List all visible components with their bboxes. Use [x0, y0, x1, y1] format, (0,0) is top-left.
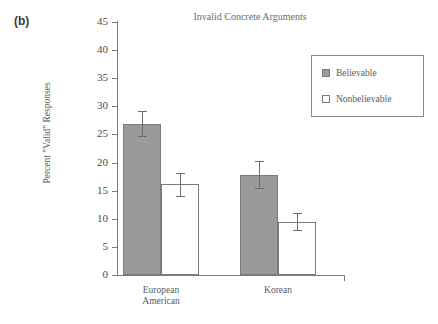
- x-axis-end-tick: [344, 275, 345, 281]
- x-category-label-european-american: EuropeanAmerican: [101, 285, 221, 307]
- errorbar-european-american-believable: [142, 111, 143, 136]
- chart-title: Invalid Concrete Arguments: [150, 11, 350, 22]
- errorbar-cap-upper: [293, 213, 302, 214]
- y-tick-label-20: 20: [82, 157, 108, 167]
- legend-label-nonbelievable: Nonbelievable: [336, 94, 391, 104]
- x-axis-line: [117, 275, 345, 276]
- legend-swatch-nonbelievable-icon: [322, 95, 330, 103]
- y-tick-label-0: 0: [82, 269, 108, 279]
- y-axis-title: Percent "Valid" Responses: [42, 58, 52, 208]
- bar-european-american-nonbelievable[interactable]: [161, 184, 199, 275]
- bar-european-american-believable[interactable]: [123, 124, 161, 275]
- bar-korean-believable[interactable]: [240, 175, 278, 275]
- legend-label-believable: Believable: [336, 68, 377, 78]
- x-category-label-korean: Korean: [218, 285, 338, 296]
- errorbar-cap-lower: [255, 188, 264, 189]
- y-tick-label-10: 10: [82, 213, 108, 223]
- errorbar-cap-upper: [176, 173, 185, 174]
- panel-label: (b): [14, 14, 29, 28]
- y-tick-label-45: 45: [82, 16, 108, 26]
- errorbar-korean-believable: [259, 161, 260, 188]
- errorbar-cap-lower: [293, 230, 302, 231]
- errorbar-cap-lower: [138, 136, 147, 137]
- y-tick-label-30: 30: [82, 100, 108, 110]
- y-tick-label-35: 35: [82, 72, 108, 82]
- errorbar-cap-upper: [255, 161, 264, 162]
- errorbar-cap-upper: [138, 111, 147, 112]
- y-tick-label-40: 40: [82, 44, 108, 54]
- y-tick-label-5: 5: [82, 241, 108, 251]
- errorbar-european-american-nonbelievable: [180, 173, 181, 195]
- legend-item-believable[interactable]: Believable: [322, 68, 377, 78]
- y-tick-label-25: 25: [82, 128, 108, 138]
- errorbar-korean-nonbelievable: [297, 213, 298, 230]
- y-tick-label-15: 15: [82, 185, 108, 195]
- y-tick-0: [112, 275, 118, 276]
- figure-panel-b: (b) Invalid Concrete Arguments Percent "…: [0, 0, 438, 324]
- legend-box: Believable Nonbelievable: [311, 55, 424, 117]
- legend-swatch-believable-icon: [322, 69, 330, 77]
- errorbar-cap-lower: [176, 196, 185, 197]
- legend-item-nonbelievable[interactable]: Nonbelievable: [322, 94, 391, 104]
